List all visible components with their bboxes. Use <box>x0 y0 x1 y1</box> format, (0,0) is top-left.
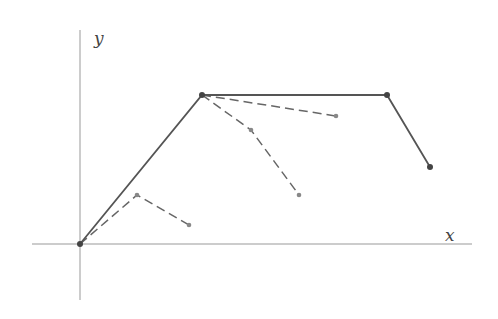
solid-path <box>77 92 433 247</box>
dashed-path-0 <box>80 195 189 244</box>
solid-point <box>77 241 83 247</box>
dashed-point <box>334 114 339 119</box>
solid-polyline <box>80 95 430 244</box>
dashed-paths <box>80 95 338 244</box>
x-axis-label: x <box>445 225 455 245</box>
dashed-path-1 <box>202 95 299 195</box>
solid-point <box>384 92 390 98</box>
dashed-point <box>135 193 140 198</box>
dashed-point <box>187 223 192 228</box>
y-axis-label: y <box>93 28 104 48</box>
dashed-point <box>249 128 254 133</box>
dashed-point <box>297 193 302 198</box>
solid-point <box>199 92 205 98</box>
dashed-path-2 <box>202 95 336 116</box>
diagram-canvas: y x <box>0 0 498 319</box>
solid-point <box>427 164 433 170</box>
